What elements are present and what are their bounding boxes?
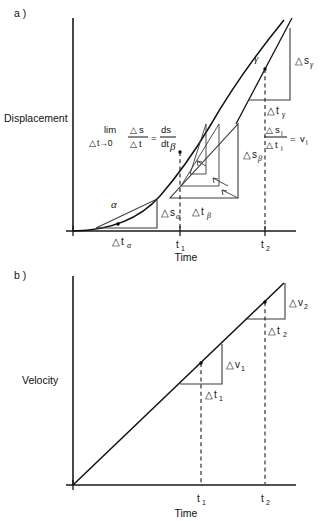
panel-a-displacement-chart: α △ s α △ t α β △ s β [0, 0, 328, 262]
panel-b-label: b ) [14, 269, 26, 281]
panel-a-label: a ) [14, 7, 26, 19]
delta-t-alpha-label: △ t α [112, 236, 132, 250]
beta-secant-triangle-middle [181, 124, 219, 186]
delta-v1-delta: △ [226, 359, 234, 370]
slope-rhs-sub: i [306, 139, 308, 146]
gamma-label: γ [254, 52, 259, 64]
delta-s-alpha-label: △ s α [161, 207, 181, 221]
panel-b-tick1-label: t 1 [197, 493, 206, 506]
delta-t-beta-label: △ t β [192, 206, 211, 220]
delta-t1-label: △ t 1 [205, 389, 223, 402]
delta-t1-sub: 1 [219, 395, 223, 402]
delta-s-beta-delta: △ [243, 149, 251, 160]
panel-b-velocity-chart: △ v 1 △ t 1 △ v 2 △ t 2 t 1 [0, 262, 328, 521]
delta-v2-sub: 2 [304, 303, 308, 310]
panel-a-tick2-sub: 2 [266, 245, 270, 252]
slope-num-text: s [275, 124, 280, 135]
slope-equals: = [290, 133, 296, 144]
limit-rhs-den: dt [161, 138, 169, 149]
delta-t-gamma-label: △ t γ [267, 105, 286, 119]
delta-t-alpha-base: t [121, 236, 124, 247]
delta-t-gamma-sub: γ [282, 110, 286, 119]
delta-t2-label: △ t 2 [268, 325, 287, 338]
beta-arrow-2 [222, 190, 238, 198]
delta-s-gamma-base: s [304, 55, 309, 66]
limit-rhs-num: ds [161, 124, 171, 135]
limit-num-text: s [139, 124, 144, 135]
delta-s-gamma-label: △ s γ [295, 55, 314, 69]
beta-label: β [169, 140, 176, 152]
delta-t-gamma-delta: △ [267, 105, 275, 116]
delta-t-alpha-delta: △ [112, 236, 120, 247]
delta-s-beta-label: △ s β [243, 149, 262, 163]
delta-t-beta-base: t [201, 206, 204, 217]
delta-v1-sub: 1 [241, 365, 245, 372]
panel-b-tick2-label: t 2 [261, 493, 270, 506]
limit-condition-delta: △ [89, 138, 96, 148]
delta-t-gamma-base: t [276, 105, 279, 116]
delta-s-alpha-delta: △ [161, 207, 169, 218]
slope-den-delta: △ [266, 140, 273, 150]
limit-num-delta: △ [130, 125, 137, 135]
limit-condition-text: t→0 [97, 138, 113, 148]
delta-s-gamma-sub: γ [310, 60, 314, 69]
panel-a-x-axis-label: Time [175, 251, 198, 262]
delta-t-alpha-sub: α [127, 241, 132, 250]
panel-a-tick2-label: t 2 [261, 239, 270, 252]
beta-arrow-1 [213, 178, 228, 186]
delta-t2-delta: △ [268, 325, 276, 336]
limit-equals: = [151, 132, 157, 143]
panel-a-tick2-base: t [261, 239, 264, 250]
panel-b-tick1-sub: 1 [202, 499, 206, 506]
limit-den-delta: △ [130, 139, 137, 149]
slope-den-text: t [275, 139, 278, 150]
panel-b-y-axis-label: Velocity [22, 374, 59, 386]
slope-rhs: v [300, 133, 305, 144]
delta-t1-delta: △ [205, 389, 213, 400]
figure-root: α △ s α △ t α β △ s β [0, 0, 328, 521]
delta-t1-base: t [214, 389, 217, 400]
delta-t2-base: t [277, 325, 280, 336]
delta-s-beta-sub: β [257, 154, 262, 163]
delta-v2-delta: △ [289, 297, 297, 308]
slope-den-sub: i [281, 145, 283, 152]
delta-t2-sub: 2 [283, 331, 287, 338]
slope-num-delta: △ [266, 125, 273, 135]
limit-equation: lim △ t→0 △ s △ t = ds dt [89, 124, 176, 149]
panel-b-tick2-base: t [261, 493, 264, 504]
panel-a-tick1-base: t [176, 239, 179, 250]
delta-s-beta-base: s [252, 149, 257, 160]
delta-v2-label: △ v 2 [289, 297, 308, 310]
delta-v1-label: △ v 1 [226, 359, 245, 372]
delta-v1-base: v [235, 359, 240, 370]
limit-lim-text: lim [104, 124, 116, 135]
alpha-label: α [111, 198, 117, 210]
delta-t-beta-sub: β [206, 211, 211, 220]
delta-v2-base: v [298, 297, 303, 308]
limit-den-text: t [139, 138, 142, 149]
velocity-line [73, 283, 284, 485]
panel-a-y-axis-label: Displacement [4, 112, 68, 124]
panel-b-x-axis-label: Time [175, 507, 198, 519]
slope-equation: △ s i △ t i = v i [264, 124, 308, 152]
alpha-point-marker [116, 222, 119, 225]
delta-s-alpha-base: s [170, 207, 175, 218]
delta-s-gamma-delta: △ [295, 55, 303, 66]
delta-t-beta-delta: △ [192, 206, 200, 217]
panel-b-tick1-base: t [197, 493, 200, 504]
panel-b-tick2-sub: 2 [266, 499, 270, 506]
alpha-slope-triangle [96, 199, 157, 228]
slope-num-sub: i [281, 130, 283, 137]
